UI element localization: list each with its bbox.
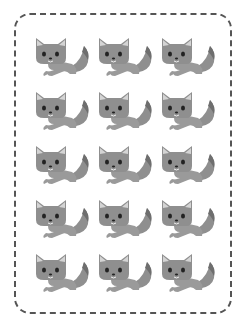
fox-icon <box>158 246 218 296</box>
fox-grid: fox fox <box>30 30 219 300</box>
fox-label: fox <box>156 246 157 247</box>
fox-label: fox <box>93 30 94 31</box>
fox-cell: fox <box>156 192 219 246</box>
fox-label: fox <box>156 138 157 139</box>
fox-label: fox <box>30 138 31 139</box>
fox-cell: fox <box>156 30 219 84</box>
fox-label: fox <box>30 246 31 247</box>
fox-label: fox <box>156 30 157 31</box>
fox-label: fox <box>93 138 94 139</box>
fox-icon <box>158 192 218 242</box>
fox-cell: fox <box>93 138 156 192</box>
fox-cell: fox <box>30 246 93 300</box>
fox-cell: fox <box>30 30 93 84</box>
fox-icon <box>95 192 155 242</box>
fox-label: fox <box>156 192 157 193</box>
fox-icon <box>32 84 92 134</box>
fox-label: fox <box>30 84 31 85</box>
fox-cell: fox <box>30 138 93 192</box>
fox-cell: fox <box>93 192 156 246</box>
fox-cell: fox <box>93 84 156 138</box>
fox-label: fox <box>93 246 94 247</box>
fox-label: fox <box>93 84 94 85</box>
fox-icon <box>95 84 155 134</box>
fox-cell: fox <box>30 84 93 138</box>
fox-icon <box>32 30 92 80</box>
fox-label: fox <box>30 30 31 31</box>
fox-cell: fox <box>156 246 219 300</box>
fox-label: fox <box>93 192 94 193</box>
fox-cell: fox <box>156 84 219 138</box>
fox-cell: fox <box>93 246 156 300</box>
fox-icon <box>32 138 92 188</box>
fox-cell: fox <box>93 30 156 84</box>
fox-label: fox <box>156 84 157 85</box>
fox-icon <box>95 246 155 296</box>
fox-icon <box>158 30 218 80</box>
fox-cell: fox <box>30 192 93 246</box>
fox-label: fox <box>30 192 31 193</box>
fox-icon <box>158 138 218 188</box>
fox-icon <box>95 138 155 188</box>
fox-icon <box>32 246 92 296</box>
fox-icon <box>32 192 92 242</box>
fox-icon <box>158 84 218 134</box>
fox-icon <box>95 30 155 80</box>
fox-cell: fox <box>156 138 219 192</box>
